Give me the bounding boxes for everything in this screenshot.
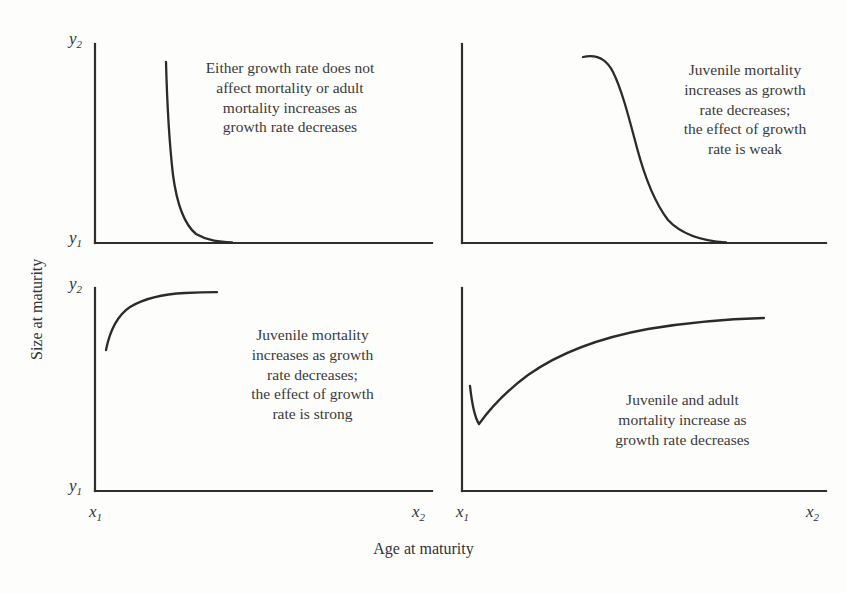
caption-bottom-right: Juvenile and adult mortality increase as… [565,390,800,449]
tick-y2-bottom-left: y2 [69,275,82,295]
caption-top-left: Either growth rate does not affect morta… [165,58,415,137]
figure-panel-grid: y2 y1 y2 y1 x1 x2 x1 x2 Either growth ra… [0,0,847,593]
tick-x2-bottom-left: x2 [412,503,425,523]
tick-y1-top-left: y1 [69,229,82,249]
curve-bottom-left [106,292,217,350]
axis-title-y: Size at maturity [28,259,46,360]
axis-title-x: Age at maturity [0,540,847,558]
tick-x2-bottom-right: x2 [806,503,819,523]
tick-y2-top-left: y2 [69,30,82,50]
tick-x1-bottom-right: x1 [456,503,469,523]
caption-bottom-left: Juvenile mortality increases as growth r… [205,325,420,424]
tick-x1-bottom-left: x1 [89,503,102,523]
caption-top-right: Juvenile mortality increases as growth r… [650,60,840,159]
tick-y1-bottom-left: y1 [69,477,82,497]
